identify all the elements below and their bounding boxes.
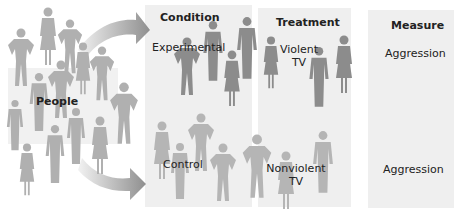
arrow-to-control-icon [78,158,146,200]
treatment-violent-line1: Violent [272,43,326,56]
treatment-nonviolent: Nonviolent TV [264,162,328,188]
treatment-violent-line2: TV [272,56,326,69]
people-label: People [36,95,78,108]
treatment-nonviolent-line2: TV [264,175,328,188]
condition-control: Control [163,158,203,171]
people-silhouettes [0,0,457,218]
condition-experimental: Experimental [152,41,225,54]
treatment-violent: Violent TV [272,43,326,69]
arrow-to-experimental-icon [78,12,150,58]
measure-aggression-2: Aggression [383,163,444,176]
measure-header: Measure [391,19,444,32]
condition-header: Condition [160,11,220,24]
treatment-nonviolent-line1: Nonviolent [264,162,328,175]
treatment-header: Treatment [276,16,340,29]
measure-aggression-1: Aggression [385,47,446,60]
